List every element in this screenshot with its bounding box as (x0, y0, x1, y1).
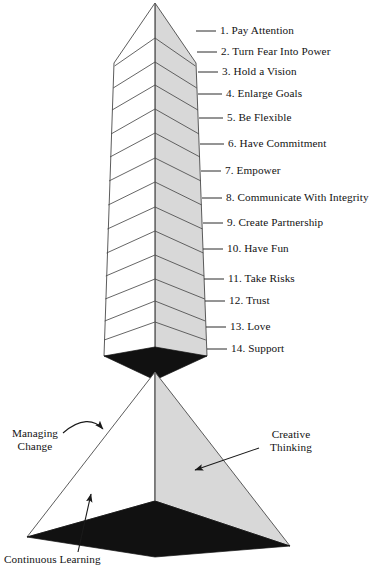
obelisk-label-4: 4. Enlarge Goals (226, 87, 302, 100)
creative-thinking-line1: Creative (262, 428, 320, 441)
obelisk-label-9: 9. Create Partnership (227, 216, 323, 229)
foundation-pyramid (27, 372, 290, 557)
obelisk-label-2: 2. Turn Fear Into Power (221, 45, 331, 58)
managing-change-line2: Change (6, 440, 64, 453)
annotation-managing-change: Managing Change (6, 427, 64, 452)
obelisk-label-6: 6. Have Commitment (228, 137, 326, 150)
obelisk-label-1: 1. Pay Attention (220, 24, 294, 37)
creative-thinking-line2: Thinking (262, 441, 320, 454)
obelisk-label-3: 3. Hold a Vision (222, 65, 297, 78)
obelisk-label-7: 7. Empower (225, 164, 281, 177)
obelisk-label-13: 13. Love (230, 320, 271, 333)
obelisk-shaft (104, 3, 207, 380)
obelisk-label-8: 8. Communicate With Integrity (226, 191, 369, 204)
obelisk-label-14: 14. Support (231, 342, 284, 355)
annotation-continuous-learning: Continuous Learning (4, 553, 101, 566)
obelisk-label-5: 5. Be Flexible (227, 111, 291, 124)
annotation-creative-thinking: Creative Thinking (262, 428, 320, 453)
obelisk-label-10: 10. Have Fun (227, 242, 289, 255)
managing-change-arrow (63, 422, 103, 433)
obelisk-label-11: 11. Take Risks (228, 272, 295, 285)
obelisk-label-12: 12. Trust (229, 294, 270, 307)
managing-change-line1: Managing (6, 427, 64, 440)
